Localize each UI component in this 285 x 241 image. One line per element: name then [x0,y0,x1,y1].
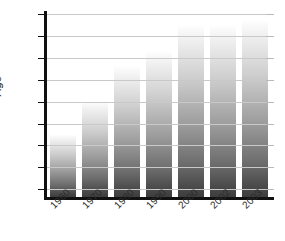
x-axis-tick-label: 2000 [176,186,200,210]
x-axis-tick-label: 1970 [80,186,104,210]
x-axis-tick-label: 1960 [48,186,72,210]
x-axis-tick-label: 2003 [240,186,264,210]
x-axis: 1960197019801990200020022003 [0,0,285,241]
bar-chart: 646668707274767880 196019701980199020002… [0,0,285,241]
y-axis-title: Age [0,75,3,96]
x-axis-tick-label: 1980 [112,186,136,210]
x-axis-tick-label: 1990 [144,186,168,210]
x-axis-tick-label: 2002 [208,186,232,210]
